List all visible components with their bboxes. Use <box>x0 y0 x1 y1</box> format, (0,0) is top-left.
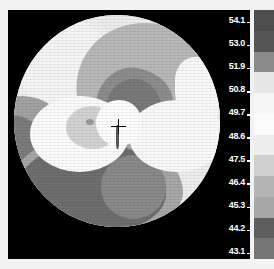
scale-label-10: 43.1 <box>214 245 252 257</box>
scale-label-value: 48.6 <box>229 131 245 141</box>
scale-label-value: 47.5 <box>229 154 245 164</box>
scale-label-value: 43.1 <box>229 246 245 256</box>
scale-tick-mark <box>247 160 252 162</box>
scale-label-value: 46.4 <box>229 177 245 187</box>
map-region-bright-center <box>96 100 141 147</box>
colorbar-swatch-11[interactable] <box>254 238 274 259</box>
scale-label-value: 54.1 <box>229 15 245 25</box>
colorbar-swatch-5[interactable] <box>254 114 274 135</box>
scale-label-value: 44.2 <box>229 223 245 233</box>
colorbar-swatch-6[interactable] <box>254 135 274 156</box>
scale-label-7: 46.4 <box>214 176 252 188</box>
scale-tick-mark <box>247 183 252 185</box>
colorbar-swatch-8[interactable] <box>254 176 274 197</box>
colorbar-swatch-2[interactable] <box>254 52 274 73</box>
scale-tick-mark <box>247 253 252 255</box>
scale-label-value: 49.7 <box>229 107 245 117</box>
scale-label-6: 47.5 <box>214 153 252 165</box>
diopter-scale[interactable]: 54.153.051.950.849.748.647.546.445.344.2… <box>214 10 274 259</box>
scale-label-0: 54.1 <box>214 14 252 26</box>
scale-tick-mark <box>247 91 252 93</box>
scale-label-value: 53.0 <box>229 38 245 48</box>
scale-tick-mark <box>247 230 252 232</box>
scale-tick-mark <box>247 207 252 209</box>
scale-label-9: 44.2 <box>214 222 252 234</box>
colorbar-swatch-4[interactable] <box>254 93 274 114</box>
scale-label-8: 45.3 <box>214 199 252 211</box>
scale-label-2: 51.9 <box>214 60 252 72</box>
scale-label-column: 54.153.051.950.849.748.647.546.445.344.2… <box>214 10 252 259</box>
colorbar-swatch-7[interactable] <box>254 155 274 176</box>
scale-tick-mark <box>247 68 252 70</box>
scale-label-value: 50.8 <box>229 84 245 94</box>
scale-tick-mark <box>247 114 252 116</box>
scale-label-1: 53.0 <box>214 37 252 49</box>
scale-tick-mark <box>247 22 252 24</box>
colorbar-swatch-1[interactable] <box>254 31 274 52</box>
scale-label-value: 45.3 <box>229 200 245 210</box>
topography-viewer: 54.153.051.950.849.748.647.546.445.344.2… <box>0 0 274 269</box>
colorbar-swatch-3[interactable] <box>254 72 274 93</box>
scale-tick-mark <box>247 45 252 47</box>
scale-label-value: 51.9 <box>229 61 245 71</box>
colorbar-swatch-0[interactable] <box>254 10 274 31</box>
map-region-center-seam <box>116 125 119 148</box>
colorbar-swatch-9[interactable] <box>254 197 274 218</box>
scale-label-3: 50.8 <box>214 83 252 95</box>
scale-label-5: 48.6 <box>214 130 252 142</box>
colorbar-swatch-10[interactable] <box>254 218 274 239</box>
colorbar[interactable] <box>254 10 274 259</box>
map-region-bright-right-lobe <box>129 100 220 172</box>
scale-label-4: 49.7 <box>214 106 252 118</box>
scale-tick-mark <box>247 137 252 139</box>
topography-map-disc[interactable] <box>14 15 220 227</box>
